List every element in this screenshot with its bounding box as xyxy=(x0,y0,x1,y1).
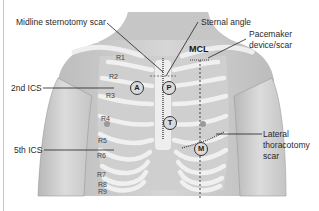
rib-label-r9: R9 xyxy=(98,188,107,196)
label-mcl: MCL xyxy=(189,44,209,54)
label-pacemaker-line1: Pacemaker xyxy=(249,29,292,39)
label-sternal-angle: Sternal angle xyxy=(201,17,251,27)
rib-label-r4: R4 xyxy=(101,115,110,123)
label-2nd-ics: 2nd ICS xyxy=(11,83,42,93)
aortic-area-marker: A xyxy=(130,81,144,95)
rib-label-r7: R7 xyxy=(97,171,106,179)
rib-label-r1: R1 xyxy=(116,54,125,62)
rib-label-r6: R6 xyxy=(97,152,106,160)
pulmonic-area-marker: P xyxy=(162,81,176,95)
chest-diagram: Midline sternotomy scar Sternal angle MC… xyxy=(0,0,319,211)
rib-label-r2: R2 xyxy=(109,73,118,81)
mitral-area-marker: M xyxy=(194,142,208,156)
tricuspid-area-marker: T xyxy=(163,116,177,130)
rib-label-r5: R5 xyxy=(98,137,107,145)
rib-label-r3: R3 xyxy=(106,92,115,100)
label-lateral-line2: thoracotomy xyxy=(263,140,310,150)
label-pacemaker-line2: device/scar xyxy=(249,40,292,50)
label-midline-sternotomy-scar: Midline sternotomy scar xyxy=(16,17,106,27)
label-5th-ics: 5th ICS xyxy=(14,145,42,155)
label-lateral-line1: Lateral xyxy=(263,129,289,139)
label-lateral-line3: scar xyxy=(263,151,279,161)
